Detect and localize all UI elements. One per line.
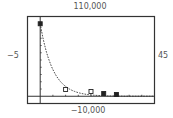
data-point [114, 93, 118, 97]
data-point [89, 90, 93, 94]
data-point [64, 88, 68, 92]
data-point [38, 22, 42, 26]
fit-curve-path [40, 24, 154, 96]
plot-area [0, 0, 173, 118]
fit-curve [40, 24, 154, 96]
data-point [102, 91, 106, 95]
data-points [38, 22, 118, 97]
